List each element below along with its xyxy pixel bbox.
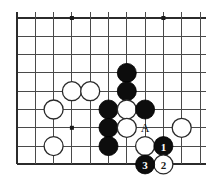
stone-move-number: 3 (142, 159, 148, 171)
point-markers: A (141, 121, 150, 135)
stone-white[interactable] (62, 82, 81, 101)
stone-black-move-1[interactable]: 1 (154, 137, 173, 156)
stone-white[interactable] (117, 100, 136, 119)
stone-move-number: 1 (161, 141, 167, 153)
goban[interactable]: A 123 (0, 0, 212, 181)
stone-white[interactable] (44, 137, 63, 156)
stone-black[interactable] (99, 118, 118, 137)
star-point (70, 126, 74, 130)
stones-layer[interactable]: 123 (44, 63, 191, 174)
stone-black[interactable] (99, 100, 118, 119)
stone-white[interactable] (44, 100, 63, 119)
stone-white[interactable] (117, 118, 136, 137)
stone-white[interactable] (136, 137, 155, 156)
star-point (161, 16, 165, 20)
stone-black[interactable] (99, 137, 118, 156)
stone-black[interactable] (117, 82, 136, 101)
stone-white[interactable] (172, 118, 191, 137)
stone-black[interactable] (117, 63, 136, 82)
stone-white[interactable] (81, 82, 100, 101)
board-point-marker-a: A (141, 121, 150, 135)
stone-black[interactable] (136, 100, 155, 119)
stone-black-move-3[interactable]: 3 (136, 155, 155, 174)
stone-white-move-2[interactable]: 2 (154, 155, 173, 174)
go-board-figure: A 123 (0, 0, 212, 181)
star-point (70, 16, 74, 20)
stone-move-number: 2 (161, 159, 167, 171)
